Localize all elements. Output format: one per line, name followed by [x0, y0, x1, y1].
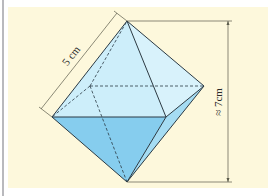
octahedron-diagram: 5 cm ≈ 7cm	[0, 0, 278, 196]
height-label: ≈ 7cm	[212, 88, 224, 116]
